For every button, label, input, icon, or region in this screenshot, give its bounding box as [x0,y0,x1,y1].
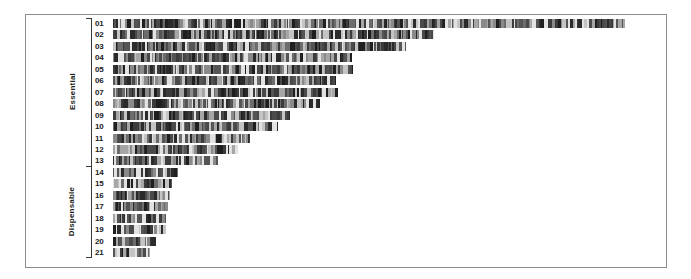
bar-row-label: 15 [95,178,111,189]
bar[interactable] [113,65,353,74]
bar[interactable] [113,202,168,211]
bar[interactable] [113,214,166,223]
bar[interactable] [113,42,406,51]
bar-row-label: 19 [95,224,111,235]
bar-row-label: 03 [95,41,111,52]
bar[interactable] [113,248,150,257]
bar-row-label: 13 [95,155,111,166]
bar-row-label: 18 [95,213,111,224]
bar-row-label: 10 [95,121,111,132]
bar-row-label: 01 [95,18,111,29]
bar[interactable] [113,237,156,246]
bar-row-label: 20 [95,236,111,247]
bar-rows-container: 0102030405060708091011121314151617181920… [0,0,691,279]
bar[interactable] [113,99,320,108]
bar-row-label: 09 [95,110,111,121]
bar-row-label: 02 [95,29,111,40]
bar[interactable] [113,225,166,234]
bar[interactable] [113,76,336,85]
bar[interactable] [113,145,238,154]
bar[interactable] [113,168,178,177]
bar-row-label: 06 [95,75,111,86]
bar[interactable] [113,191,170,200]
bar-row-label: 17 [95,201,111,212]
bar[interactable] [113,88,338,97]
bar[interactable] [113,19,625,28]
bar-row-label: 21 [95,247,111,258]
bar[interactable] [113,156,218,165]
bar-row-label: 11 [95,133,111,144]
bar-row-label: 07 [95,87,111,98]
bar-row-label: 05 [95,64,111,75]
bar[interactable] [113,53,352,62]
bar-row-label: 04 [95,52,111,63]
bar[interactable] [113,179,172,188]
bar-row-label: 16 [95,190,111,201]
bar[interactable] [113,122,278,131]
bar[interactable] [113,30,434,39]
bar-row-label: 14 [95,167,111,178]
bar-row-label: 12 [95,144,111,155]
figure-canvas: Essential Dispensable 010203040506070809… [0,0,691,279]
bar[interactable] [113,111,290,120]
bar[interactable] [113,134,250,143]
bar-row-label: 08 [95,98,111,109]
